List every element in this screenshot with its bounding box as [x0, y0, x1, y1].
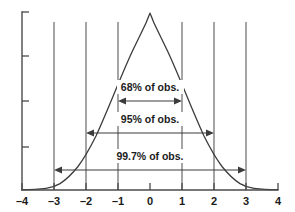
band-95-arrow-right — [206, 130, 214, 137]
x-label-pos4: 4 — [275, 195, 282, 207]
band-95-label: 95% of obs. — [121, 113, 179, 125]
x-label-neg4: –4 — [16, 195, 29, 207]
band-68-label: 68% of obs. — [121, 81, 179, 93]
x-axis-tick-labels: –4 –3 –2 –1 0 1 2 3 4 — [16, 195, 282, 207]
band-997-annotation: 99.7% of obs. — [54, 149, 246, 173]
band-997-arrow-left — [54, 167, 62, 174]
band-997-label: 99.7% of obs. — [116, 150, 183, 162]
chart-canvas: –4 –3 –2 –1 0 1 2 3 4 68% of obs. 95% of… — [0, 0, 295, 212]
band-68-arrow-right — [174, 98, 182, 105]
band-68-arrow-left — [118, 98, 126, 105]
normal-distribution-chart: –4 –3 –2 –1 0 1 2 3 4 68% of obs. 95% of… — [0, 0, 295, 212]
band-997-arrow-right — [238, 167, 246, 174]
x-label-0: 0 — [147, 195, 153, 207]
x-label-pos3: 3 — [243, 195, 249, 207]
band-95-arrow-left — [86, 130, 94, 137]
x-label-neg2: –2 — [80, 195, 92, 207]
band-68-annotation: 68% of obs. — [117, 80, 184, 104]
gridlines — [54, 22, 246, 190]
x-label-neg1: –1 — [112, 195, 124, 207]
x-label-pos1: 1 — [179, 195, 185, 207]
x-label-pos2: 2 — [211, 195, 217, 207]
y-axis — [22, 12, 29, 190]
x-label-neg3: –3 — [48, 195, 60, 207]
